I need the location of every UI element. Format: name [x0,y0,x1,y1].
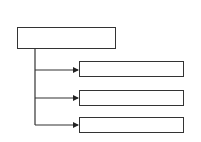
child-box-2 [79,90,184,106]
child-box-3 [79,117,184,133]
root-box [17,27,116,49]
child-box-1 [79,61,184,77]
